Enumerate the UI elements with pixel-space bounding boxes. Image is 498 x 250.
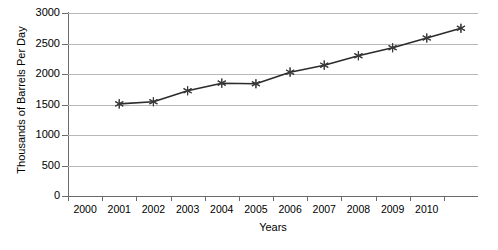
data-series-layer	[0, 0, 498, 250]
data-point-marker	[457, 24, 465, 33]
series-line-barrels-per-day	[119, 28, 461, 104]
line-chart: Thousands of Barrels Per Day 05001000150…	[0, 0, 498, 250]
series-markers	[115, 24, 465, 109]
